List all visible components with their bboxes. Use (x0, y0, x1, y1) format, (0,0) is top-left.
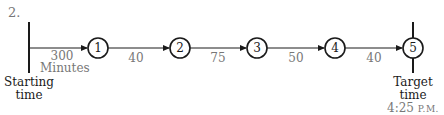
target-clock: 4:25 (387, 101, 414, 115)
node-1-label: 1 (88, 38, 108, 58)
edge-duration-3-4: 50 (284, 52, 308, 65)
start-label-line2: time (0, 89, 58, 102)
target-clock-time: 4:25 P.M. (382, 102, 444, 115)
node-2-label: 2 (170, 38, 190, 58)
problem-number: 2. (8, 6, 20, 19)
edge-duration-4-5: 40 (362, 52, 386, 65)
node-4-label: 4 (325, 38, 345, 58)
edge-duration-1-2: 40 (124, 52, 148, 65)
edge-duration-2-3: 75 (206, 52, 230, 65)
edge-unit-minutes: Minutes (40, 62, 84, 75)
node-5-label: 5 (403, 38, 423, 58)
node-3-label: 3 (247, 38, 267, 58)
target-meridiem: P.M. (418, 104, 439, 114)
